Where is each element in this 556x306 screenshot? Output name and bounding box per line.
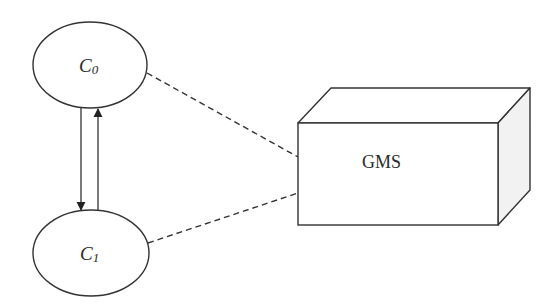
gms-box-top-face [298, 88, 530, 123]
node-c0-subscript: 0 [92, 62, 99, 77]
diagram-canvas: C0 C1 GMS [0, 0, 556, 306]
gms-label: GMS [362, 152, 401, 172]
node-c1: C1 [33, 210, 149, 296]
node-c0-label: C [79, 55, 92, 76]
node-gms: GMS [298, 88, 530, 225]
node-c0: C0 [33, 22, 147, 108]
node-c1-label: C [80, 243, 93, 264]
node-c1-subscript: 1 [93, 250, 100, 265]
gms-box-front-face [298, 123, 498, 225]
edge-c0-gms-dashed [147, 73, 298, 157]
edge-c1-gms-dashed [148, 193, 298, 243]
